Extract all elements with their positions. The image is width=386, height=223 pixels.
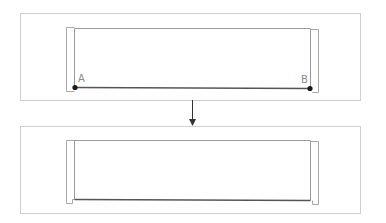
- before-panel: A B: [21, 14, 361, 101]
- point-b-label: B: [301, 74, 308, 85]
- segment-ab: [75, 88, 311, 89]
- after-panel: [21, 127, 361, 214]
- transformation-diagram: A B: [0, 0, 386, 223]
- left-bracket: [67, 28, 75, 92]
- inner-frame: [75, 29, 311, 88]
- segment-bottom: [75, 200, 311, 201]
- left-bracket: [67, 141, 75, 204]
- down-arrow-icon: [189, 100, 196, 126]
- point-a-label: A: [78, 73, 85, 84]
- right-bracket: [311, 142, 319, 205]
- point-b: [307, 86, 312, 91]
- point-a: [72, 85, 77, 90]
- right-bracket: [311, 30, 319, 93]
- inner-frame: [75, 141, 311, 201]
